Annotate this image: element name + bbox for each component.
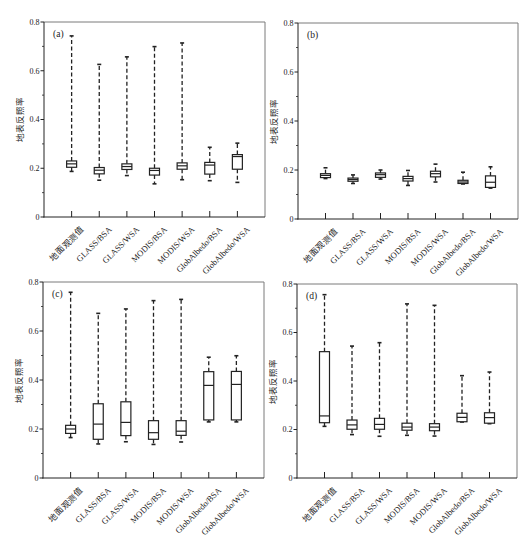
panel-label: (c) bbox=[52, 289, 63, 300]
y-axis-title: 地表反照率 bbox=[268, 359, 278, 404]
box-1 bbox=[67, 36, 77, 172]
panel-c: 00.20.40.60.8地表反照率(c)地面观测值GLASS/BSAGLASS… bbox=[14, 278, 264, 537]
box-7 bbox=[485, 372, 495, 424]
y-tick-label: 0 bbox=[35, 474, 39, 483]
y-tick-label: 0.6 bbox=[30, 67, 40, 76]
box-3 bbox=[121, 309, 131, 442]
box-4 bbox=[402, 304, 412, 435]
box-5 bbox=[431, 164, 441, 182]
panel-label: (b) bbox=[307, 30, 318, 41]
box-2 bbox=[347, 346, 357, 435]
iqr-box bbox=[176, 421, 186, 436]
y-tick-label: 0.2 bbox=[284, 166, 294, 175]
x-category-label: GlobAlbedo/WSA bbox=[452, 485, 504, 537]
box-7 bbox=[231, 356, 241, 422]
iqr-box bbox=[205, 162, 215, 174]
box-3 bbox=[376, 170, 386, 179]
box-5 bbox=[177, 43, 187, 180]
box-4 bbox=[150, 47, 160, 184]
y-tick-label: 0 bbox=[36, 213, 40, 222]
y-tick-label: 0.6 bbox=[29, 327, 39, 336]
y-tick-label: 0.4 bbox=[30, 115, 40, 124]
y-tick-label: 0 bbox=[290, 215, 294, 224]
box-4 bbox=[403, 170, 413, 185]
y-tick-label: 0.6 bbox=[283, 328, 293, 337]
x-category-label: GlobAlbedo/WSA bbox=[200, 224, 252, 276]
y-tick-label: 0.8 bbox=[30, 18, 40, 27]
iqr-box bbox=[204, 372, 214, 420]
iqr-box bbox=[231, 371, 241, 420]
box-6 bbox=[458, 172, 468, 184]
y-tick-label: 0.2 bbox=[29, 425, 39, 434]
panel-label: (d) bbox=[306, 291, 317, 302]
y-tick-label: 0.2 bbox=[283, 425, 293, 434]
box-7 bbox=[232, 143, 242, 182]
box-7 bbox=[486, 167, 496, 188]
y-axis-title: 地表反照率 bbox=[269, 99, 279, 144]
box-2 bbox=[94, 64, 104, 180]
x-category-label: GlobAlbedo/WSA bbox=[199, 485, 251, 537]
iqr-box bbox=[150, 168, 160, 175]
y-axis-title: 地表反照率 bbox=[15, 97, 25, 142]
iqr-box bbox=[121, 402, 131, 436]
y-tick-label: 0 bbox=[289, 474, 293, 483]
boxplot-figure: 00.20.40.60.8地表反照率(a)地面观测值GLASS/BSAGLASS… bbox=[0, 0, 532, 539]
box-3 bbox=[375, 343, 385, 437]
y-tick-label: 0.8 bbox=[29, 278, 39, 287]
iqr-box bbox=[320, 352, 330, 423]
iqr-box bbox=[375, 418, 385, 429]
box-5 bbox=[430, 305, 440, 436]
box-2 bbox=[348, 175, 358, 184]
y-tick-label: 0.4 bbox=[29, 376, 39, 385]
y-tick-label: 0.4 bbox=[283, 377, 293, 386]
iqr-box bbox=[486, 176, 496, 188]
y-tick-label: 0.8 bbox=[284, 19, 294, 28]
box-6 bbox=[204, 357, 214, 422]
iqr-box bbox=[149, 421, 159, 440]
panel-d: 00.20.40.60.8地表反照率(d)地面观测值GLASS/BSAGLASS… bbox=[268, 280, 517, 537]
y-axis-title: 地表反照率 bbox=[14, 358, 24, 403]
y-tick-label: 0.6 bbox=[284, 68, 294, 77]
panel-label: (a) bbox=[53, 29, 64, 40]
iqr-box bbox=[93, 404, 103, 440]
y-tick-label: 0.2 bbox=[30, 164, 40, 173]
x-category-label: GlobAlbedo/WSA bbox=[453, 226, 505, 278]
panel-a: 00.20.40.60.8地表反照率(a)地面观测值GLASS/BSAGLASS… bbox=[15, 18, 265, 276]
box-3 bbox=[122, 57, 132, 176]
y-tick-label: 0.8 bbox=[283, 280, 293, 289]
panel-b: 00.20.40.60.8地表反照率(b)地面观测值GLASS/BSAGLASS… bbox=[269, 19, 518, 278]
box-1 bbox=[66, 292, 76, 437]
box-5 bbox=[176, 299, 186, 442]
box-1 bbox=[320, 295, 330, 427]
box-4 bbox=[149, 301, 159, 445]
box-2 bbox=[93, 313, 103, 444]
box-6 bbox=[205, 147, 215, 180]
y-tick-label: 0.4 bbox=[284, 117, 294, 126]
box-1 bbox=[321, 168, 331, 179]
box-6 bbox=[457, 376, 467, 422]
